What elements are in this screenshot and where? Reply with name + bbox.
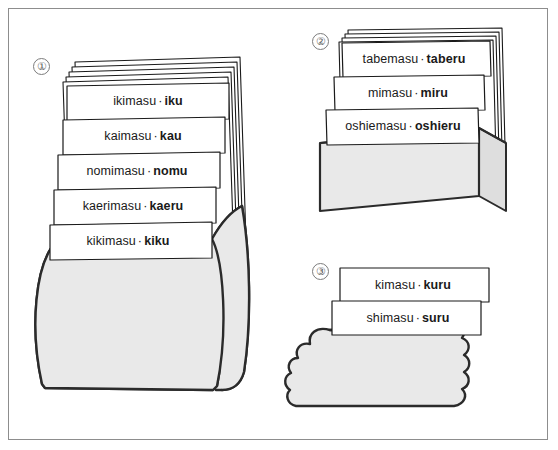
card-separator: · bbox=[412, 86, 420, 100]
card-label-ikimasu: ikimasu·iku bbox=[113, 95, 183, 108]
card-masu-form: shimasu bbox=[366, 311, 413, 325]
card-masu-form: mimasu bbox=[368, 86, 412, 100]
card-separator: · bbox=[414, 311, 422, 325]
card-masu-form: kaerimasu bbox=[83, 199, 142, 213]
card-label-kikimasu: kikimasu·kiku bbox=[86, 235, 169, 248]
card-dict-form: iku bbox=[164, 94, 182, 108]
card-masu-form: tabemasu bbox=[363, 52, 419, 66]
card-masu-form: kimasu bbox=[375, 278, 415, 292]
group-1-container-front bbox=[35, 239, 223, 390]
card-label-kaerimasu: kaerimasu·kaeru bbox=[83, 200, 184, 213]
card-dict-form: kau bbox=[160, 129, 182, 143]
card-label-tabemasu: tabemasu·taberu bbox=[363, 53, 466, 66]
card-dict-form: miru bbox=[421, 86, 449, 100]
card-label-kimasu: kimasu·kuru bbox=[375, 279, 451, 292]
card-masu-form: oshiemasu bbox=[345, 119, 406, 133]
illustration-artwork bbox=[0, 0, 558, 450]
card-masu-form: kaimasu bbox=[104, 129, 151, 143]
card-dict-form: kaeru bbox=[149, 199, 183, 213]
illustration-figure: ① ② ③ ikimasu·iku kaimasu·kau nomimasu·n… bbox=[0, 0, 558, 450]
group-marker-2: ② bbox=[312, 33, 329, 50]
card-dict-form: nomu bbox=[153, 164, 187, 178]
card-separator: · bbox=[152, 129, 160, 143]
card-masu-form: kikimasu bbox=[86, 234, 135, 248]
card-dict-form: oshieru bbox=[415, 119, 461, 133]
card-label-mimasu: mimasu·miru bbox=[368, 87, 448, 100]
card-label-nomimasu: nomimasu·nomu bbox=[86, 165, 187, 178]
card-separator: · bbox=[141, 199, 149, 213]
card-dict-form: suru bbox=[422, 311, 450, 325]
card-label-oshiemasu: oshiemasu·oshieru bbox=[345, 120, 460, 133]
card-separator: · bbox=[418, 52, 426, 66]
card-label-shimasu: shimasu·suru bbox=[366, 312, 449, 325]
card-label-kaimasu: kaimasu·kau bbox=[104, 130, 181, 143]
card-masu-form: ikimasu bbox=[113, 94, 156, 108]
group-marker-3: ③ bbox=[312, 263, 329, 280]
card-separator: · bbox=[136, 234, 144, 248]
card-masu-form: nomimasu bbox=[86, 164, 144, 178]
card-dict-form: taberu bbox=[427, 52, 466, 66]
card-separator: · bbox=[145, 164, 153, 178]
card-separator: · bbox=[407, 119, 415, 133]
card-dict-form: kiku bbox=[144, 234, 169, 248]
card-dict-form: kuru bbox=[423, 278, 451, 292]
group-marker-1: ① bbox=[33, 58, 50, 75]
